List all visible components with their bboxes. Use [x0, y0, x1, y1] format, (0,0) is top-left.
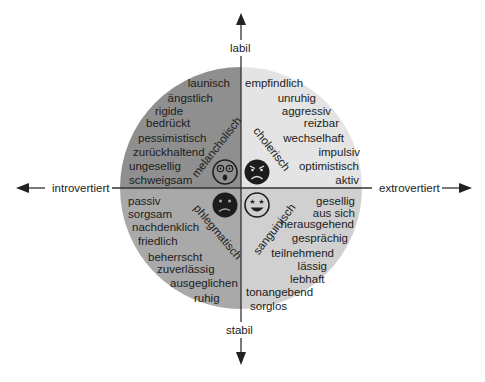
trait-empfindlich: empfindlich — [245, 76, 303, 90]
trait-unruhig: unruhig — [278, 91, 316, 105]
trait-pessimistisch: pessimistisch — [138, 131, 206, 145]
trait-reizbar: reizbar — [304, 116, 339, 130]
trait-aktiv: aktiv — [335, 173, 359, 187]
arrow-up-icon — [236, 13, 246, 25]
trait-teilnehmend: teilnehmend — [271, 246, 334, 260]
arrow-down-icon — [236, 352, 246, 365]
trait-lebhaft: lebhaft — [290, 272, 325, 286]
trait-schweigsam: schweigsam — [129, 173, 192, 187]
angry-face-icon — [245, 160, 270, 185]
trait-aengstlich: ängstlich — [168, 91, 213, 105]
trait-bedrueckt: bedrückt — [146, 116, 190, 130]
axis-label-introvertiert: introvertiert — [50, 181, 112, 195]
trait-gespraechig: gesprächig — [292, 231, 348, 245]
trait-zurueckhaltend: zurückhaltend — [133, 145, 205, 159]
trait-herausgehend: herausgehend — [280, 217, 354, 231]
trait-launisch: launisch — [188, 76, 230, 90]
trait-passiv: passiv — [128, 194, 161, 208]
trait-friedlich: friedlich — [138, 234, 178, 248]
trait-wechselhaft: wechselhaft — [283, 131, 344, 145]
trait-ruhig: ruhig — [194, 291, 220, 305]
svg-text:★: ★ — [249, 198, 255, 206]
trait-ausgeglichen: ausgeglichen — [170, 276, 238, 290]
trait-optimistisch: optimistisch — [299, 159, 359, 173]
trait-nachdenklich: nachdenklich — [132, 220, 199, 234]
axis-label-stabil: stabil — [224, 323, 255, 337]
axis-label-extrovertiert: extrovertiert — [377, 181, 442, 195]
axis-label-labil: labil — [228, 41, 252, 55]
trait-sorgsam: sorgsam — [128, 207, 172, 221]
trait-ungesellig: ungesellig — [129, 159, 181, 173]
trait-tonangebend: tonangebend — [246, 285, 313, 299]
trait-impulsiv: impulsiv — [318, 145, 360, 159]
arrow-right-icon — [459, 183, 472, 193]
sad-face-icon — [213, 193, 238, 218]
svg-text:★: ★ — [258, 198, 264, 206]
trait-sorglos: sorglos — [250, 299, 287, 313]
trait-laessig: lässig — [298, 259, 327, 273]
arrow-left-icon — [16, 183, 29, 193]
trait-zuverlaessig: zuverlässig — [157, 262, 215, 276]
